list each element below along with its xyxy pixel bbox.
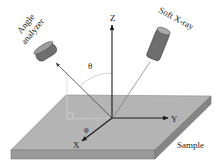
theta-arc (79, 73, 112, 87)
angle-analyzer-device (32, 39, 58, 63)
z-axis-label: Z (110, 13, 116, 23)
phi-label: φ (84, 125, 89, 134)
measurement-geometry-diagram: Angle analyzer Soft X-ray Z Y X θ φ Samp… (0, 0, 223, 167)
sample-front-face (11, 150, 155, 159)
sample-label: Sample (177, 140, 204, 150)
theta-label: θ (88, 61, 92, 71)
y-axis-label: Y (171, 114, 178, 124)
xray-source-device (146, 26, 171, 62)
x-axis-label: X (73, 140, 80, 150)
